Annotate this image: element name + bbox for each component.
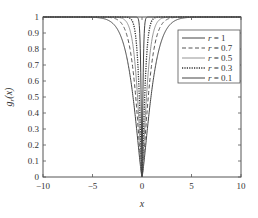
x-tick-label: 10 (237, 181, 247, 191)
legend: r = 1r = 0.7r = 0.5r = 0.3r = 0.1 (178, 30, 240, 83)
y-tick-label: 0.3 (28, 124, 40, 134)
y-tick-label: 0.5 (28, 92, 40, 102)
y-tick-label: 0.2 (28, 140, 39, 150)
legend-label: r = 1 (208, 33, 226, 43)
x-tick-label: −10 (36, 181, 51, 191)
x-tick-label: 5 (189, 181, 194, 191)
x-axis-label: x (139, 198, 145, 209)
x-tick-label: −5 (88, 181, 98, 191)
y-tick-label: 0.6 (28, 76, 40, 86)
x-tick-label: 0 (140, 181, 145, 191)
y-tick-label: 0.4 (28, 108, 40, 118)
y-tick-label: 1 (35, 12, 40, 22)
y-axis-label: gr(x) (3, 87, 16, 107)
y-tick-label: 0.7 (28, 60, 40, 70)
legend-label: r = 0.3 (208, 63, 233, 73)
y-tick-label: 0.9 (28, 28, 40, 38)
legend-label: r = 0.7 (208, 43, 233, 53)
y-tick-label: 0.1 (28, 156, 39, 166)
y-tick-label: 0.8 (28, 44, 40, 54)
line-chart: 00.10.20.30.40.50.60.70.80.91 −10−50510 … (0, 0, 258, 218)
legend-label: r = 0.1 (208, 73, 232, 83)
legend-label: r = 0.5 (208, 53, 233, 63)
